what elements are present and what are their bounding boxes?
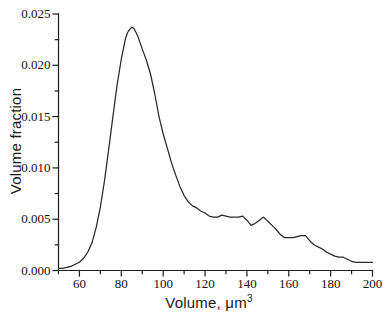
y-tick-label: 0.000 [21,263,50,278]
x-tick-label: 80 [115,276,128,291]
x-axis-title: Volume, μm3 [165,294,252,311]
x-tick-label: 140 [237,276,257,291]
chart-canvas: 60801001201401601802000.0000.0050.0100.0… [0,0,389,322]
x-axis-title-text: Volume, μm [165,294,247,311]
y-tick-label: 0.015 [21,109,50,124]
y-axis-title: Volume fraction [7,88,24,194]
y-tick-label: 0.010 [21,160,50,175]
data-curve-volume-fraction-distribution [59,27,373,268]
x-tick-label: 160 [279,276,299,291]
y-tick-label: 0.005 [21,211,50,226]
volume-distribution-chart: 60801001201401601802000.0000.0050.0100.0… [0,0,389,322]
x-tick-label: 180 [321,276,341,291]
y-tick-label: 0.025 [21,6,50,21]
y-tick-label: 0.020 [21,57,50,72]
x-tick-label: 100 [153,276,173,291]
x-tick-label: 60 [73,276,86,291]
x-tick-label: 120 [195,276,215,291]
x-axis-title-superscript: 3 [247,293,253,304]
x-tick-label: 200 [363,276,383,291]
